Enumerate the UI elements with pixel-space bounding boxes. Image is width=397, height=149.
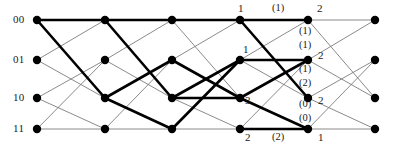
trellis-node (33, 125, 41, 133)
trellis-node (236, 94, 244, 102)
trellis-edge (172, 98, 240, 129)
branch-metric-label: (0) (299, 99, 311, 110)
trellis-edge (37, 98, 105, 129)
trellis-canvas (0, 0, 397, 149)
trellis-node (371, 125, 379, 133)
trellis-edge (105, 20, 172, 60)
path-metric-label: 1 (243, 44, 249, 55)
survivor-path-edge (172, 60, 240, 129)
trellis-node (304, 125, 312, 133)
path-metric-label: 3 (245, 95, 251, 106)
branch-metric-label: (2) (272, 132, 284, 143)
trellis-node (236, 125, 244, 133)
state-label: 01 (13, 54, 25, 65)
trellis-edge (172, 20, 240, 98)
path-metric-label: 2 (317, 3, 323, 14)
state-label: 10 (13, 92, 25, 103)
trellis-node (168, 125, 176, 133)
trellis-node (168, 94, 176, 102)
trellis-node (168, 56, 176, 64)
trellis-node (101, 56, 109, 64)
trellis-node (168, 16, 176, 24)
survivor-path-edge (37, 20, 105, 98)
trellis-node (236, 56, 244, 64)
trellis-node (371, 94, 379, 102)
path-metric-label: 2 (318, 95, 324, 106)
trellis-node (101, 16, 109, 24)
trellis-edge (105, 60, 172, 129)
path-metric-label: 2 (318, 50, 324, 61)
trellis-edge (240, 20, 308, 60)
branch-metric-label: (1) (299, 40, 311, 51)
state-label: 11 (13, 123, 24, 134)
branch-metric-label: (1) (299, 26, 311, 37)
survivor-path-edge (105, 98, 172, 129)
survivor-path-edge (105, 20, 172, 98)
branch-metric-label: (2) (299, 78, 311, 89)
trellis-diagram: 0001101112123221(1)(1)(1)(1)(2)(0)(0)(2) (0, 0, 397, 149)
path-metric-label: 1 (318, 132, 324, 143)
thin-edge-layer (37, 20, 375, 129)
branch-metric-label: (1) (299, 64, 311, 75)
trellis-node (33, 56, 41, 64)
branch-metric-label: (1) (272, 3, 284, 14)
trellis-node (33, 94, 41, 102)
trellis-node (101, 125, 109, 133)
trellis-node (371, 56, 379, 64)
branch-metric-label: (0) (299, 113, 311, 124)
path-metric-label: 1 (238, 3, 244, 14)
path-metric-label: 2 (245, 132, 251, 143)
trellis-node (101, 94, 109, 102)
trellis-edge (172, 20, 240, 60)
trellis-node (304, 16, 312, 24)
trellis-node (236, 16, 244, 24)
trellis-edge (37, 20, 105, 60)
trellis-node (33, 16, 41, 24)
trellis-node (371, 16, 379, 24)
trellis-edge (37, 60, 105, 129)
state-label: 00 (13, 14, 25, 25)
